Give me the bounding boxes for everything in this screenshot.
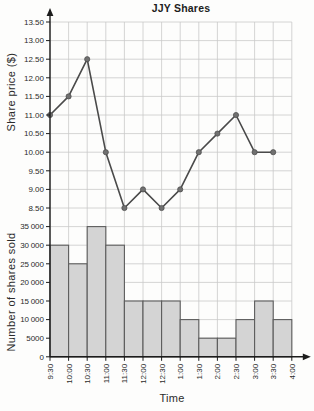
volume-bar xyxy=(236,320,255,357)
volume-tick-label: 10 000 xyxy=(20,315,44,324)
time-tick-label: 2:30 xyxy=(232,363,241,379)
time-tick-label: 2:00 xyxy=(213,363,222,379)
time-tick-label: 9:30 xyxy=(46,363,55,379)
price-point xyxy=(178,187,183,192)
volume-bar xyxy=(69,264,88,357)
volume-bar xyxy=(180,320,199,357)
time-tick-label: 3:30 xyxy=(269,363,278,379)
price-point xyxy=(66,94,71,99)
time-tick-label: 10:00 xyxy=(65,363,74,384)
volume-bar xyxy=(162,301,181,357)
volume-tick-label: 5000 xyxy=(26,334,44,343)
price-point xyxy=(215,131,220,136)
price-tick-label: 12.50 xyxy=(24,55,45,64)
volume-bar xyxy=(273,320,292,357)
volume-bar xyxy=(124,301,143,357)
price-tick-label: 13.00 xyxy=(24,36,45,45)
price-point xyxy=(140,187,145,192)
price-point xyxy=(85,57,90,62)
time-tick-label: 12:00 xyxy=(139,363,148,384)
price-tick-label: 11.50 xyxy=(25,92,45,101)
price-point xyxy=(122,205,127,210)
price-tick-label: 10.00 xyxy=(24,148,45,157)
price-tick-label: 9.50 xyxy=(28,167,44,176)
volume-bar xyxy=(217,338,236,357)
price-point xyxy=(196,150,201,155)
time-tick-label: 1:00 xyxy=(176,363,185,379)
time-tick-label: 10:30 xyxy=(83,363,92,384)
price-tick-label: 10.50 xyxy=(24,129,45,138)
price-point xyxy=(103,150,108,155)
chart-canvas: 13.5013.0012.5012.0011.5011.0010.5010.00… xyxy=(0,0,314,411)
volume-bar xyxy=(106,245,125,357)
price-tick-label: 8.50 xyxy=(28,204,44,213)
volume-bar xyxy=(255,301,274,357)
volume-bar xyxy=(50,245,69,357)
volume-bar xyxy=(143,301,162,357)
y-axis-arrow-icon xyxy=(47,8,54,16)
volume-tick-label: 35 000 xyxy=(20,222,44,231)
price-tick-label: 11.00 xyxy=(25,111,45,120)
volume-tick-label: 20 000 xyxy=(20,278,44,287)
price-tick-label: 13.50 xyxy=(24,18,45,27)
price-point xyxy=(252,150,257,155)
time-tick-label: 11:00 xyxy=(102,363,111,383)
volume-tick-label: 0 xyxy=(40,353,45,362)
volume-bar xyxy=(87,227,106,357)
volume-tick-label: 25 000 xyxy=(20,260,44,269)
time-tick-label: 4:00 xyxy=(288,363,297,379)
price-point xyxy=(233,112,238,117)
jjy-shares-figure: JJY Shares Share price ($) Number of sha… xyxy=(0,0,314,411)
price-tick-label: 9.00 xyxy=(28,185,44,194)
time-tick-label: 3:00 xyxy=(251,363,260,379)
time-tick-label: 1:30 xyxy=(195,363,204,379)
price-point xyxy=(159,205,164,210)
x-axis-arrow-icon xyxy=(303,353,311,360)
volume-tick-label: 15 000 xyxy=(20,297,44,306)
volume-bar xyxy=(199,338,218,357)
time-tick-label: 12:30 xyxy=(158,363,167,384)
price-tick-label: 12.00 xyxy=(24,74,45,83)
price-point xyxy=(271,150,276,155)
time-tick-label: 11:30 xyxy=(120,363,129,383)
volume-tick-label: 30 000 xyxy=(20,241,44,250)
